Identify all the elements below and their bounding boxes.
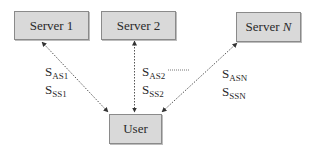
server-n-label-italic: N	[283, 19, 292, 34]
server-1-node: Server 1	[14, 11, 89, 40]
label-s-ss1: SSS1	[45, 83, 67, 101]
label-s-ssn: SSSN	[222, 85, 246, 103]
server-n-node: Server N	[236, 12, 301, 42]
server-2-label: Server 2	[117, 18, 161, 34]
label-s-asn: SASN	[222, 67, 247, 85]
label-s-asn-sub: ASN	[229, 73, 247, 83]
label-s-ss1-sub: SS1	[52, 89, 67, 99]
label-s-as2: SAS2	[142, 65, 165, 83]
label-s-ssn-sub: SSN	[229, 91, 246, 101]
user-label: User	[123, 121, 148, 137]
server-1-label: Server 1	[30, 18, 74, 34]
server-n-label-prefix: Server	[246, 19, 283, 34]
user-node: User	[109, 114, 162, 144]
server-2-node: Server 2	[101, 11, 176, 40]
label-s-ss2-sub: SS2	[149, 89, 164, 99]
label-s-ss2: SSS2	[142, 83, 164, 101]
server-n-label: Server N	[246, 19, 292, 35]
label-s-as1: SAS1	[45, 65, 68, 83]
label-s-as2-sub: AS2	[149, 71, 165, 81]
label-s-as1-sub: AS1	[52, 71, 68, 81]
